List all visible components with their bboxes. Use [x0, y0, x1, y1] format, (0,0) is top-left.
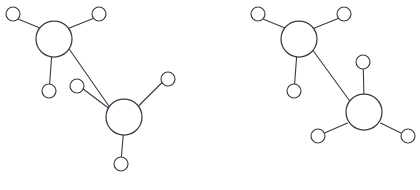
bond-right1-to-sub1	[264, 19, 285, 28]
bond-right2-to-sub2	[325, 123, 348, 133]
bond-left2-to-sub2	[139, 83, 162, 106]
atom-sub-right-1-a	[251, 7, 265, 21]
atom-sub-left-1-c	[42, 84, 56, 98]
bond-right2-to-sub3	[381, 123, 402, 133]
atom-center-left-2	[106, 99, 142, 135]
atom-sub-left-2-b	[161, 72, 175, 86]
atom-sub-right-1-b	[337, 7, 351, 21]
right-structure	[251, 7, 415, 143]
bond-left2-to-sub1	[83, 89, 109, 109]
atom-sub-left-2-a	[70, 79, 84, 93]
bond-left1-to-sub1	[19, 19, 40, 28]
bond-right1-to-sub3	[295, 57, 297, 84]
bond-right-intermolecular	[313, 51, 352, 105]
bond-left1-to-sub3	[50, 57, 52, 84]
atom-sub-right-2-b	[311, 129, 325, 143]
atom-sub-left-2-c	[114, 157, 128, 171]
atom-sub-right-2-a	[356, 55, 370, 69]
atom-center-left-1	[36, 21, 72, 57]
bond-right1-to-sub2	[314, 19, 338, 29]
bond-right2-to-sub1	[363, 69, 364, 95]
bond-left2-to-sub3	[121, 135, 123, 157]
atom-sub-left-1-a	[6, 7, 20, 21]
left-structure	[6, 7, 175, 171]
molecular-diagram-svg	[0, 0, 420, 190]
atom-center-right-2	[346, 94, 382, 130]
atom-center-right-1	[281, 21, 317, 57]
atom-sub-right-2-c	[401, 129, 415, 143]
bond-left1-to-sub2	[69, 19, 93, 29]
figure-canvas	[0, 0, 420, 190]
atom-sub-left-1-b	[92, 7, 106, 21]
atom-sub-right-1-c	[287, 84, 301, 98]
